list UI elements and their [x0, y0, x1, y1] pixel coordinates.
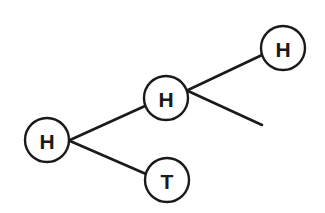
edge-root-to-mid-h — [70, 106, 145, 140]
edge-mid-h-to-top-h — [188, 55, 262, 90]
coin-flip-tree-diagram: H H H T — [0, 0, 325, 213]
edge-mid-h-to-empty-branch — [188, 91, 262, 125]
edge-root-to-bottom-t — [70, 141, 146, 174]
node-label: H — [39, 130, 54, 153]
node-label: H — [275, 38, 290, 61]
node-mid-h: H — [144, 76, 188, 120]
nodes: H H H T — [25, 26, 305, 202]
node-top-h: H — [261, 26, 305, 70]
node-bottom-t: T — [145, 158, 189, 202]
node-label: T — [161, 170, 174, 193]
node-root: H — [25, 118, 69, 162]
node-label: H — [158, 88, 173, 111]
